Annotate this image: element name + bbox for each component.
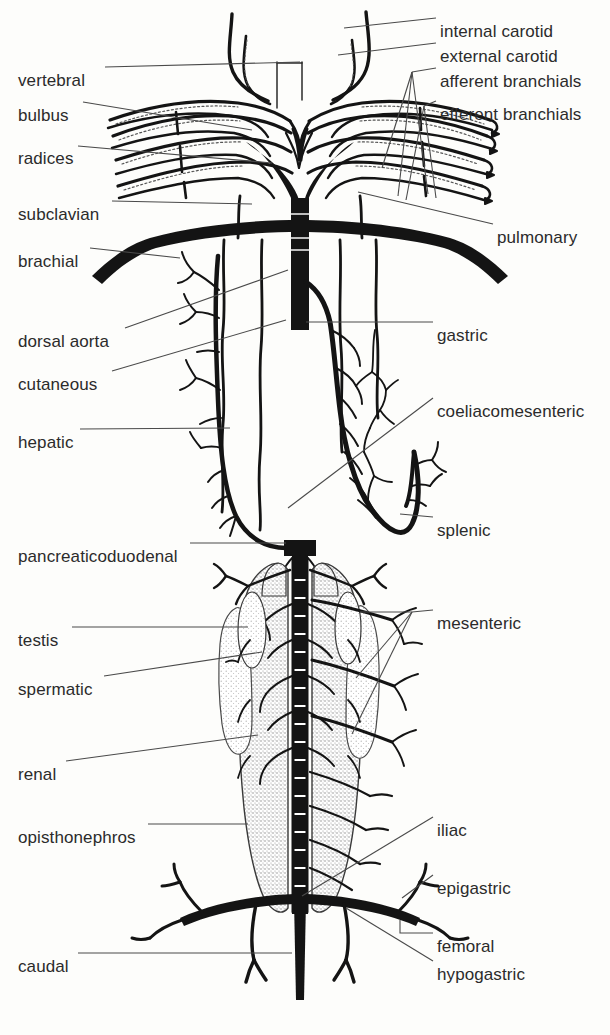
label-dorsal-aorta: dorsal aorta — [18, 333, 109, 350]
label-hypogastric: hypogastric — [437, 966, 525, 983]
figure-page: vertebralbulbusradicessubclavianbrachial… — [0, 0, 610, 1035]
diagram-ink — [92, 12, 508, 1000]
hepatic-artery-main — [216, 256, 286, 548]
leader-hepatic — [80, 428, 230, 429]
label-efferent-branchials: efferent branchials — [440, 106, 581, 123]
label-spermatic: spermatic — [18, 681, 93, 698]
pancreaticoduodenal-junction — [284, 540, 316, 556]
label-iliac: iliac — [437, 822, 467, 839]
label-internal-carotid: internal carotid — [440, 23, 553, 40]
label-cutaneous: cutaneous — [18, 376, 97, 393]
external-carotid-vessels — [244, 36, 355, 104]
label-brachial: brachial — [18, 253, 78, 270]
label-vertebral: vertebral — [18, 72, 85, 89]
leader-subclavian — [112, 201, 252, 204]
splenic-artery — [406, 452, 414, 506]
anatomical-diagram — [0, 0, 610, 1035]
leader-mesenteric — [412, 610, 433, 612]
coeliacomesenteric-trunk — [306, 282, 418, 532]
label-opisthonephros: opisthonephros — [18, 829, 136, 846]
label-subclavian: subclavian — [18, 206, 99, 223]
dorsal-aorta-upper — [291, 198, 309, 330]
label-renal: renal — [18, 766, 56, 783]
label-gastric: gastric — [437, 327, 488, 344]
label-epigastric: epigastric — [437, 880, 511, 897]
label-splenic: splenic — [437, 522, 491, 539]
median-guide-lines — [277, 62, 302, 108]
caudal-artery — [294, 900, 306, 1000]
leader-vertebral — [105, 62, 300, 67]
label-testis: testis — [18, 632, 58, 649]
label-femoral: femoral — [437, 938, 494, 955]
leader-afferent-branchials — [412, 68, 436, 72]
label-radices: radices — [18, 150, 74, 167]
label-hepatic: hepatic — [18, 434, 74, 451]
label-coeliacomesenteric: coeliacomesenteric — [437, 403, 584, 420]
label-mesenteric: mesenteric — [437, 615, 521, 632]
label-pulmonary: pulmonary — [497, 229, 577, 246]
label-caudal: caudal — [18, 958, 69, 975]
mesenteric-branches — [392, 608, 422, 766]
label-afferent-branchials: afferent branchials — [440, 73, 581, 90]
leader-internal-carotid — [344, 18, 436, 28]
label-bulbus: bulbus — [18, 107, 69, 124]
leader-efferent-fan-1 — [406, 106, 424, 200]
bulbus-arteriosus — [290, 121, 310, 160]
leader-epigastric — [402, 875, 433, 898]
label-pancreaticoduodenal: pancreaticoduodenal — [18, 548, 178, 565]
label-external-carotid: external carotid — [440, 48, 558, 65]
